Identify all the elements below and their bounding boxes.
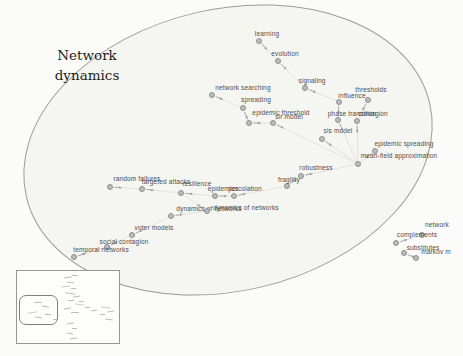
minimap-scatter-mark (34, 302, 42, 303)
edge-arrow-resilience (185, 193, 192, 194)
minimap-scatter-mark (71, 312, 79, 313)
minimap-scatter-mark (45, 314, 51, 315)
minimap-scatter-mark (70, 338, 77, 340)
minimap-scatter-mark (67, 282, 74, 284)
figure-title-line1: Network (38, 46, 136, 66)
minimap-scatter-mark (91, 310, 97, 312)
minimap-scatter-mark (72, 328, 77, 329)
minimap-scatter-mark (65, 292, 75, 295)
minimap-scatter-mark (64, 308, 71, 310)
minimap-scatter-mark (72, 275, 78, 276)
minimap-scatter-mark (73, 296, 80, 298)
minimap-scatter-mark (67, 333, 73, 335)
figure-canvas: learningevolutionsignalinginfluencethres… (0, 0, 463, 356)
figure-title-line2: dynamics (38, 66, 136, 86)
edge-arrow-substitutes (408, 255, 414, 258)
minimap-scatter-mark (101, 306, 110, 309)
minimap-scatter-mark (71, 288, 76, 289)
minimap-inset (16, 270, 120, 344)
minimap-scatter-mark (64, 276, 72, 278)
minimap-scatter-mark (107, 311, 114, 313)
minimap-scatter-mark (75, 303, 84, 306)
minimap-scatter-mark (67, 323, 74, 325)
figure-title: Network dynamics (38, 46, 136, 85)
minimap-scatter-mark (85, 307, 90, 308)
edge-complements-network (396, 235, 422, 243)
edge-arrow-complements (400, 240, 407, 242)
minimap-zoom-region (19, 295, 58, 325)
minimap-scatter-mark (100, 314, 105, 315)
minimap-scatter-mark (68, 300, 74, 301)
minimap-scatter-mark (105, 318, 113, 320)
minimap-scatter-mark (79, 301, 84, 303)
minimap-scatter-mark (61, 285, 70, 288)
